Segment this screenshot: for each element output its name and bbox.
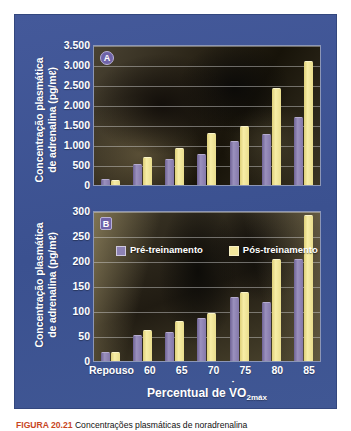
legend-label-post: Pós-treinamento — [243, 245, 318, 256]
legend-label-pre: Pré-treinamento — [130, 245, 203, 256]
x-axis-tick-label: Repouso — [89, 364, 134, 376]
panel-a-y-axis-ticks: 3.5003.0002.5002.0001.5001.0005000 — [46, 45, 90, 185]
bar — [101, 179, 110, 185]
bar — [207, 133, 216, 185]
bar — [272, 88, 281, 185]
y-axis-tick-label: 1.500 — [46, 120, 90, 130]
bar — [304, 215, 313, 361]
bar — [294, 117, 303, 185]
panel-a-y-axis-title-line1: Concentração plasmática — [33, 58, 45, 183]
x-axis-title-prefix: Percentual de — [147, 386, 229, 400]
panel-b-x-axis-title: Percentual de VO2máx — [93, 386, 321, 402]
bar-group — [294, 212, 313, 361]
bar — [262, 134, 271, 185]
bar — [230, 141, 239, 185]
bar-group — [262, 212, 281, 361]
y-axis-tick-label: 3.000 — [46, 60, 90, 70]
bar — [133, 335, 142, 361]
panel-b-plot-area: B Pré-treinamento Pós-treinamento — [93, 211, 321, 362]
y-axis-tick-label: 100 — [46, 306, 90, 316]
bar-group — [165, 212, 184, 361]
bar — [240, 126, 249, 185]
bar-group — [133, 212, 152, 361]
legend-item-pre: Pré-treinamento — [116, 245, 203, 256]
bar — [230, 297, 239, 361]
chart-legend: Pré-treinamento Pós-treinamento — [116, 245, 318, 256]
panel-a-plot-area: A — [93, 45, 321, 186]
bar — [197, 154, 206, 185]
legend-item-post: Pós-treinamento — [229, 245, 318, 256]
figure-caption-text: Concentrações plasmáticas de noradrenali… — [75, 420, 247, 430]
y-axis-tick-label: 250 — [46, 231, 90, 241]
bar — [111, 180, 120, 185]
bar — [165, 332, 174, 361]
bar-group — [230, 212, 249, 361]
figure-panel: Concentração plasmática de adrenalina (p… — [14, 14, 337, 409]
panel-a-bars — [94, 46, 320, 185]
panel-b-bars — [94, 212, 320, 361]
panel-a-badge: A — [100, 51, 114, 65]
figure-caption-tag: FIGURA 20.21 — [16, 420, 73, 430]
panel-b-x-axis-labels: Repouso606570758085 — [89, 364, 325, 376]
bar — [175, 148, 184, 185]
y-axis-tick-label: 0 — [46, 356, 90, 366]
x-axis-tick-label: 65 — [166, 364, 198, 376]
bar-group — [165, 46, 184, 185]
y-axis-tick-label: 2.500 — [46, 80, 90, 90]
bar-group — [101, 212, 120, 361]
y-axis-tick-label: 500 — [46, 160, 90, 170]
legend-swatch-post-icon — [229, 246, 239, 256]
x-axis-tick-label: 70 — [198, 364, 230, 376]
bar — [133, 164, 142, 185]
bar-group — [197, 46, 216, 185]
x-axis-title-subscript: 2máx — [246, 393, 266, 402]
x-axis-tick-label: 75 — [229, 364, 261, 376]
y-axis-tick-label: 50 — [46, 331, 90, 341]
x-axis-tick-label: 60 — [134, 364, 166, 376]
bar — [175, 321, 184, 361]
bar — [111, 352, 120, 361]
bar — [143, 157, 152, 185]
bar — [272, 259, 281, 361]
y-axis-tick-label: 3.500 — [46, 40, 90, 50]
bar — [294, 259, 303, 361]
bar-group — [101, 46, 120, 185]
bar — [240, 292, 249, 361]
panel-b-badge: B — [100, 217, 112, 230]
y-axis-tick-label: 0 — [46, 180, 90, 190]
panel-b-y-axis-ticks: 300250200150100500 — [46, 211, 90, 361]
y-axis-tick-label: 300 — [46, 206, 90, 216]
panel-b-y-axis-title-line1: Concentração plasmática — [33, 223, 45, 348]
y-axis-tick-label: 150 — [46, 281, 90, 291]
bar-group — [230, 46, 249, 185]
y-axis-tick-label: 200 — [46, 256, 90, 266]
bar — [101, 352, 110, 361]
bar — [197, 318, 206, 361]
legend-swatch-pre-icon — [116, 246, 126, 256]
x-axis-tick-label: 80 — [261, 364, 293, 376]
bar-group — [294, 46, 313, 185]
y-axis-tick-label: 2.000 — [46, 100, 90, 110]
bar — [207, 313, 216, 361]
bar — [143, 330, 152, 361]
bar — [304, 61, 313, 185]
bar-group — [197, 212, 216, 361]
figure-caption: FIGURA 20.21 Concentrações plasmáticas d… — [16, 420, 336, 431]
bar — [262, 302, 271, 361]
bar — [165, 159, 174, 185]
x-axis-tick-label: 85 — [293, 364, 325, 376]
bar-group — [262, 46, 281, 185]
bar-group — [133, 46, 152, 185]
figure-root: Concentração plasmática de adrenalina (p… — [0, 0, 351, 431]
y-axis-tick-label: 1.000 — [46, 140, 90, 150]
x-axis-title-v-dot: V — [229, 386, 237, 400]
